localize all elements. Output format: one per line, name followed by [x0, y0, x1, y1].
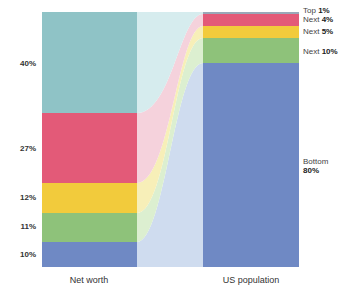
bar-net-worth	[42, 12, 137, 267]
bar-us-population	[203, 12, 299, 267]
segment-next10	[42, 213, 137, 242]
legend-next10-value: 10%	[322, 47, 338, 56]
segment-top1	[42, 12, 137, 113]
segment-next10	[203, 38, 299, 63]
legend-next4-value: 4%	[322, 15, 334, 24]
legend-next10-text: Next	[303, 47, 322, 56]
legend-top1-value: 1%	[318, 6, 330, 15]
segment-top1	[203, 12, 299, 14]
segment-next5	[203, 26, 299, 38]
legend-top1-text: Top	[303, 6, 318, 15]
label-net-worth-bottom: 10%	[20, 250, 36, 259]
legend-next5-text: Next	[303, 27, 322, 36]
x-label-us-population: US population	[223, 275, 280, 285]
legend-bottom-value: 80%	[303, 166, 319, 175]
legend-top1: Top 1%	[303, 6, 330, 15]
segment-next4	[203, 14, 299, 26]
legend-next4: Next 4%	[303, 15, 333, 24]
segment-bottom	[203, 63, 299, 267]
segment-next5	[42, 183, 137, 213]
legend-bottom-text: Bottom	[303, 157, 328, 166]
flows	[137, 12, 203, 267]
legend-next4-text: Next	[303, 15, 322, 24]
label-net-worth-top1: 40%	[20, 59, 36, 68]
legend-next5-value: 5%	[322, 27, 334, 36]
segment-next4	[42, 113, 137, 183]
label-net-worth-next4: 27%	[20, 144, 36, 153]
label-net-worth-next10: 11%	[20, 222, 36, 231]
legend-next10: Next 10%	[303, 47, 338, 56]
segment-bottom	[42, 242, 137, 267]
legend-bottom: 80%	[303, 166, 319, 175]
legend-next5: Next 5%	[303, 27, 333, 36]
sankey-bar-chart	[0, 0, 345, 300]
x-label-net-worth: Net worth	[70, 275, 109, 285]
label-net-worth-next5: 12%	[20, 193, 36, 202]
